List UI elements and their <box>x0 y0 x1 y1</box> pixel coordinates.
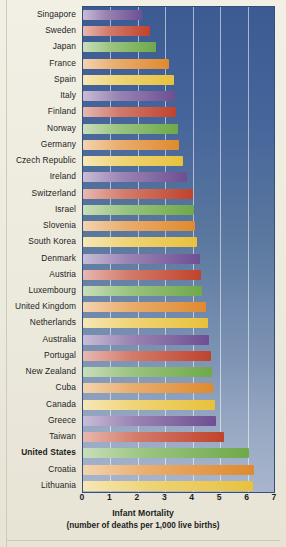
category-label: Greece <box>48 412 76 428</box>
bar <box>83 302 206 312</box>
category-label: Sweden <box>45 22 76 38</box>
caption-line-2: (number of deaths per 1,000 live births) <box>0 520 286 532</box>
bar <box>83 221 195 231</box>
category-label: Singapore <box>37 6 76 22</box>
category-label: Finland <box>48 103 76 119</box>
bar-row <box>83 445 275 461</box>
category-label: United States <box>21 444 76 460</box>
value-axis: 01234567 <box>0 492 286 506</box>
bar <box>83 172 187 182</box>
bar-row <box>83 7 275 23</box>
bar <box>83 351 211 361</box>
bar-row <box>83 104 275 120</box>
bar-row <box>83 413 275 429</box>
bar <box>83 254 200 264</box>
plot-area <box>82 6 275 493</box>
bar <box>83 237 197 247</box>
category-label: Luxembourg <box>28 282 76 298</box>
category-label: Spain <box>54 71 76 87</box>
bar <box>83 26 150 36</box>
bar <box>83 107 176 117</box>
category-label: Portugal <box>44 347 76 363</box>
category-label: Israel <box>55 201 76 217</box>
bar-row <box>83 153 275 169</box>
bar <box>83 205 194 215</box>
category-axis-labels: SingaporeSwedenJapanFranceSpainItalyFinl… <box>0 6 79 493</box>
axis-tick-0: 0 <box>80 492 85 502</box>
bar <box>83 286 202 296</box>
bar <box>83 140 179 150</box>
bar-series <box>83 7 274 492</box>
bar-row <box>83 56 275 72</box>
category-label: Netherlands <box>30 314 76 330</box>
bar-row <box>83 202 275 218</box>
bar <box>83 400 215 410</box>
bar-row <box>83 478 275 493</box>
bar-row <box>83 218 275 234</box>
bar-row <box>83 283 275 299</box>
axis-tick-2: 2 <box>134 492 139 502</box>
bar-row <box>83 462 275 478</box>
bar-row <box>83 364 275 380</box>
bar-row <box>83 299 275 315</box>
axis-tick-3: 3 <box>162 492 167 502</box>
bar-row <box>83 88 275 104</box>
bar <box>83 42 156 52</box>
category-label: Australia <box>43 331 76 347</box>
bar <box>83 189 193 199</box>
category-label: France <box>49 55 76 71</box>
bar <box>83 383 213 393</box>
axis-tick-4: 4 <box>189 492 194 502</box>
axis-tick-7: 7 <box>272 492 277 502</box>
caption-line-1: Infant Mortality <box>0 508 286 520</box>
bar <box>83 367 212 377</box>
bar-row <box>83 137 275 153</box>
bar <box>83 448 249 458</box>
bar-row <box>83 251 275 267</box>
category-label: Czech Republic <box>16 152 76 168</box>
category-label: Germany <box>41 136 76 152</box>
category-label: Cuba <box>56 379 76 395</box>
bar <box>83 318 208 328</box>
chart-page: SingaporeSwedenJapanFranceSpainItalyFinl… <box>0 0 286 547</box>
bar-row <box>83 186 275 202</box>
category-label: Slovenia <box>43 217 76 233</box>
category-label: New Zealand <box>26 363 76 379</box>
chart-caption: Infant Mortality (number of deaths per 1… <box>0 508 286 531</box>
bar <box>83 75 174 85</box>
bar-row <box>83 39 275 55</box>
bar <box>83 416 216 426</box>
bar <box>83 91 175 101</box>
bar-row <box>83 397 275 413</box>
axis-tick-1: 1 <box>107 492 112 502</box>
category-label: Lithuania <box>41 477 76 493</box>
bar <box>83 481 253 491</box>
axis-tick-5: 5 <box>217 492 222 502</box>
category-label: Ireland <box>50 168 76 184</box>
bar <box>83 432 224 442</box>
bar-row <box>83 169 275 185</box>
category-label: Canada <box>46 396 76 412</box>
category-label: United Kingdom <box>15 298 76 314</box>
bar-row <box>83 72 275 88</box>
bar-row <box>83 23 275 39</box>
bar <box>83 124 178 134</box>
bar-row <box>83 121 275 137</box>
category-label: Italy <box>60 87 76 103</box>
bar <box>83 156 183 166</box>
bar <box>83 10 142 20</box>
bar <box>83 335 209 345</box>
bar <box>83 465 254 475</box>
category-label: Denmark <box>41 250 76 266</box>
category-label: Norway <box>47 120 76 136</box>
category-label: Japan <box>53 38 76 54</box>
bar-row <box>83 332 275 348</box>
axis-tick-6: 6 <box>244 492 249 502</box>
category-label: Austria <box>49 266 76 282</box>
bar-row <box>83 380 275 396</box>
bar-row <box>83 267 275 283</box>
bar-row <box>83 234 275 250</box>
bar-row <box>83 429 275 445</box>
category-label: Croatia <box>48 461 76 477</box>
bar-row <box>83 348 275 364</box>
